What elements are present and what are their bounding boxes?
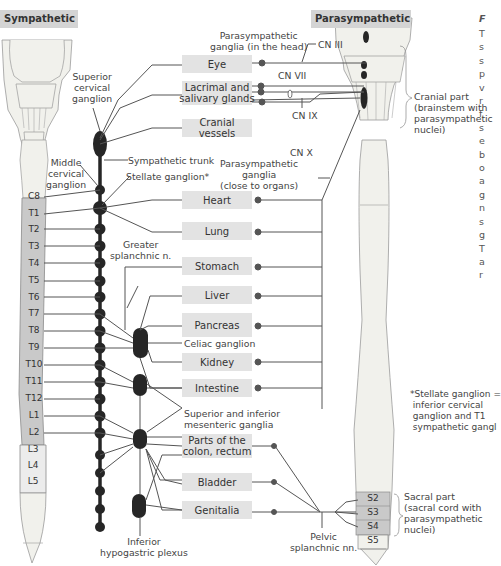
sympathetic-header: Sympathetic (0, 10, 78, 28)
organ-liver: Liver (182, 286, 252, 304)
side-text-line: r (479, 268, 485, 281)
label-cn9: CN IX (292, 110, 318, 121)
prevertebral-ganglia (132, 328, 148, 518)
label-sympathetic-trunk: Sympathetic trunk (128, 155, 214, 166)
label-superior-cervical-ganglion: Superior cervical ganglion (72, 71, 112, 104)
side-text-line: r (479, 94, 485, 107)
segment-l5: L5 (20, 471, 46, 492)
organ-cranial-vessels: Cranial vessels (182, 119, 252, 137)
side-text-line: e (479, 134, 485, 147)
label-stellate-ganglion: Stellate ganglion* (126, 171, 209, 182)
side-text-line: a (479, 174, 485, 187)
label-celiac-ganglion: Celiac ganglion (184, 338, 255, 349)
side-text-line: g (479, 188, 485, 201)
side-text-line: s (479, 121, 485, 134)
parasympathetic-spinal-cord (335, 18, 412, 565)
side-text-line: f (479, 107, 485, 120)
side-text-line: n (479, 201, 485, 214)
organ-eye: Eye (182, 55, 252, 73)
label-greater-splanchnic: Greater splanchnic n. (110, 239, 171, 261)
side-text-line: o (479, 161, 485, 174)
organ-kidney: Kidney (182, 353, 252, 371)
organ-intestine: Intestine (182, 379, 252, 397)
label-middle-cervical-ganglion: Middle cervical ganglion (46, 157, 86, 190)
organ-heart: Heart (182, 191, 252, 209)
side-text-heading: F (479, 12, 486, 25)
side-text-line: a (479, 255, 485, 268)
label-parasym-ganglia-head: Parasympathetic ganglia (in the head) (210, 30, 307, 52)
sympathetic-connections (44, 65, 182, 536)
organ-colon-rectum: Parts of the colon, rectum (182, 434, 252, 458)
organ-pancreas: Pancreas (182, 313, 252, 337)
organ-lacrimal-salivary: Lacrimal and salivary glands (182, 81, 252, 105)
side-text-line: T (479, 242, 485, 255)
label-cn3: CN III (318, 39, 343, 50)
segment-s5: S5 (358, 531, 388, 549)
side-text-line: v (479, 81, 485, 94)
label-cn10: CN X (290, 147, 313, 158)
label-parasym-ganglia-organs: Parasympathetic ganglia (close to organs… (220, 158, 298, 191)
side-text-lines: TsspvrfseboagnsgTar (479, 27, 485, 282)
stellate-footnote: *Stellate ganglion = inferior cervical g… (410, 389, 501, 433)
label-inferior-hypogastric-plexus: Inferior hypogastric plexus (100, 536, 188, 558)
label-pelvic-splanchnic: Pelvic splanchnic nn. (290, 531, 357, 553)
organ-bladder: Bladder (182, 473, 252, 491)
organ-lung: Lung (182, 222, 252, 240)
side-text-line: s (479, 40, 485, 53)
side-text-line: T (479, 27, 485, 40)
side-text-line: p (479, 67, 485, 80)
organ-stomach: Stomach (182, 257, 252, 275)
side-text-line: b (479, 148, 485, 161)
label-sacral-part: Sacral part (sacral cord with parasympat… (404, 491, 483, 535)
side-text-line: s (479, 215, 485, 228)
label-mesenteric-ganglia: Superior and inferior mesenteric ganglia (184, 408, 280, 430)
parasympathetic-header: Parasympathetic (311, 10, 411, 28)
side-text-line: g (479, 228, 485, 241)
label-cn7: CN VII (278, 70, 306, 81)
organ-genitalia: Genitalia (182, 501, 252, 519)
side-text-line: s (479, 54, 485, 67)
